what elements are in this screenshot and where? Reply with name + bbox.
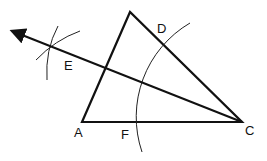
- label-d: D: [157, 22, 166, 35]
- construction-figure: [0, 0, 267, 161]
- diagram: A C D E F: [0, 0, 267, 161]
- label-c: C: [245, 124, 254, 137]
- label-f: F: [121, 128, 129, 141]
- label-a: A: [74, 126, 83, 139]
- label-e: E: [64, 59, 73, 72]
- bisector-ray: [17, 33, 242, 122]
- arc-e-1: [47, 26, 58, 80]
- arc-d-f: [136, 23, 190, 152]
